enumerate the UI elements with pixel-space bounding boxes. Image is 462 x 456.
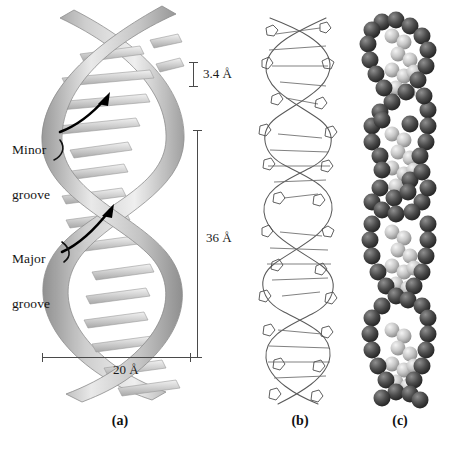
space-filling-svg: [352, 14, 448, 406]
major-groove-label-line1: Major: [12, 251, 50, 266]
stick-model-sugar-rings: [259, 22, 337, 402]
dna-structure-figure: Minor groove Major groove 3.4 Å 36 Å 20 …: [0, 0, 462, 456]
stick-model-svg: [252, 14, 348, 406]
minor-groove-label: Minor groove: [12, 112, 50, 232]
panel-c-space-filling-model: [352, 14, 448, 406]
diameter-dimension-line: [42, 357, 197, 358]
panel-b-stick-model: [252, 14, 348, 406]
rise-dimension-line: [193, 62, 194, 87]
rise-dimension-cap-bottom: [189, 86, 198, 87]
minor-groove-label-line2: groove: [12, 187, 50, 202]
panel-label-c: (c): [370, 413, 430, 429]
turn-dimension-cap-top: [193, 130, 202, 131]
major-groove-label-line2: groove: [12, 296, 50, 311]
panel-label-b: (b): [270, 413, 330, 429]
diameter-dimension-cap-left: [42, 353, 43, 362]
rise-dimension-label: 3.4 Å: [203, 66, 232, 82]
diameter-dimension-label: 20 Å: [113, 362, 139, 378]
rise-dimension-cap-top: [189, 62, 198, 63]
panel-label-a: (a): [90, 413, 150, 429]
diameter-dimension-cap-right: [190, 353, 191, 362]
major-groove-label: Major groove: [12, 221, 50, 341]
turn-dimension-line: [197, 130, 198, 358]
turn-dimension-label: 36 Å: [206, 230, 232, 246]
minor-groove-label-line1: Minor: [12, 142, 50, 157]
